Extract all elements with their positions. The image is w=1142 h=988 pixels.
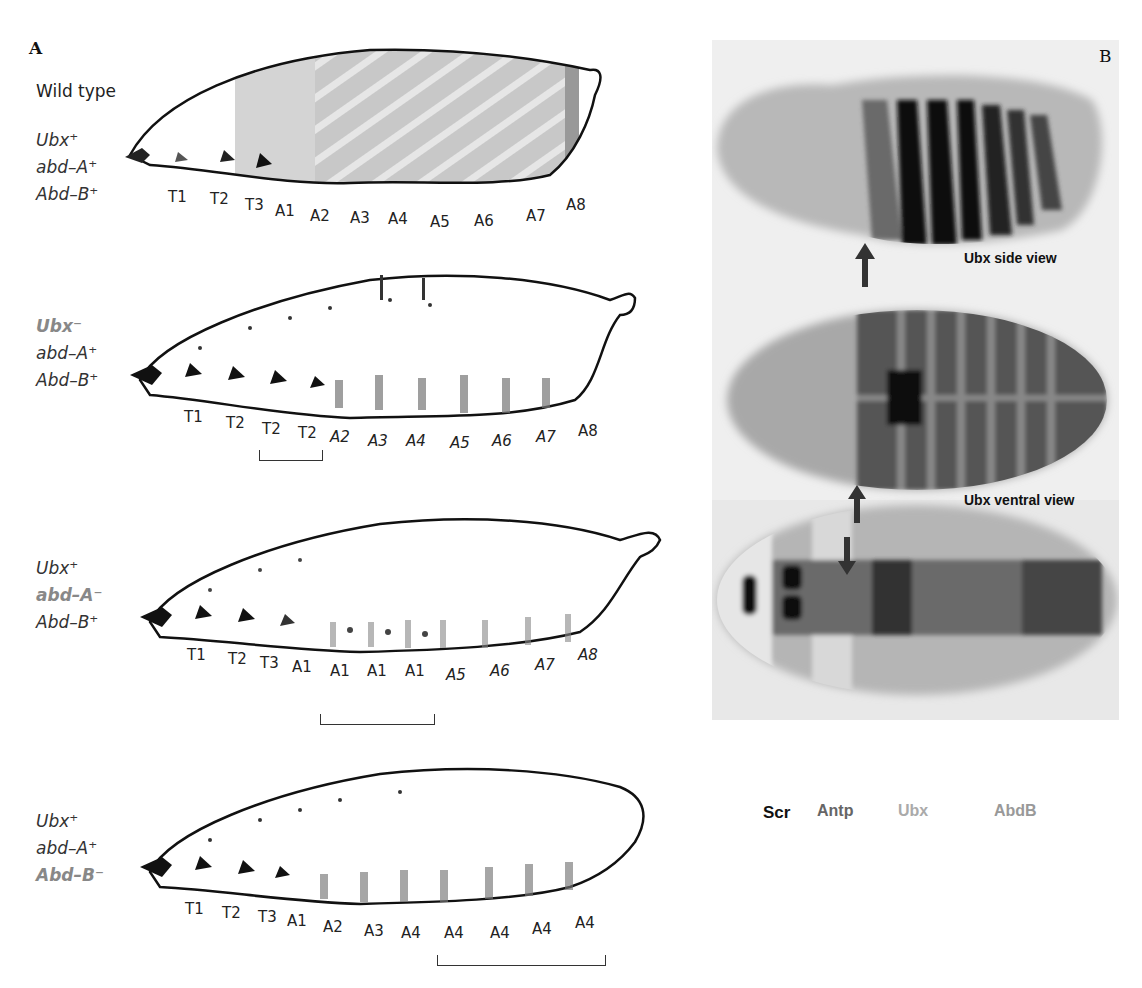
segment-label: T2 xyxy=(228,650,247,668)
genotype-wild-type: Wild type Ubx⁺ abd–A⁺ Abd–B⁺ xyxy=(36,78,116,208)
segment-label: A2 xyxy=(323,918,343,936)
segment-label: A2 xyxy=(310,207,330,225)
gene-label-antp: Antp xyxy=(817,802,853,820)
segment-label: A6 xyxy=(490,662,510,680)
segment-label: T2 xyxy=(226,414,245,432)
genotype-abd-b: Abd–B⁺ xyxy=(36,609,102,636)
segment-label: A1 xyxy=(405,662,425,680)
segment-label: A7 xyxy=(536,428,556,446)
genotype-abd-b: Abd–B⁻ xyxy=(36,862,104,889)
segment-label: A8 xyxy=(578,422,598,440)
genotype-abd-a: abd–A⁺ xyxy=(36,835,104,862)
genotype-ubx: Ubx⁺ xyxy=(36,127,116,154)
segment-label: A4 xyxy=(406,432,426,450)
segment-label: A8 xyxy=(578,646,598,664)
segment-label: T1 xyxy=(168,188,187,206)
segment-label: T3 xyxy=(258,908,277,926)
genotype-abd-a: abd–A⁺ xyxy=(36,340,98,367)
segment-label: A5 xyxy=(450,434,470,452)
segment-label: A3 xyxy=(364,922,384,940)
embryo-stains xyxy=(712,40,1119,720)
segment-label: A3 xyxy=(350,209,370,227)
segment-label: T1 xyxy=(187,646,206,664)
larva-abd-a-mutant xyxy=(140,512,680,657)
segment-label: A4 xyxy=(388,210,408,228)
arrow-up-icon xyxy=(855,243,875,287)
segment-label: A4 xyxy=(490,924,510,942)
arrow-down-icon xyxy=(838,537,856,575)
gene-label-abdb: AbdB xyxy=(994,802,1037,820)
segment-label: T2 xyxy=(222,904,241,922)
segment-label: A7 xyxy=(526,207,546,225)
genotype-abd-a-mutant: Ubx⁺ abd–A⁻ Abd–B⁺ xyxy=(36,555,102,636)
segment-label: A1 xyxy=(292,658,312,676)
segment-label: A8 xyxy=(566,196,586,214)
transformation-bracket xyxy=(437,955,606,966)
arrow-up-icon xyxy=(848,485,866,523)
segment-label: A6 xyxy=(492,432,512,450)
gene-label-scr: Scr xyxy=(763,803,790,823)
segment-label: A5 xyxy=(430,213,450,231)
segment-label: A1 xyxy=(367,662,387,680)
caption-ubx-ventral-view: Ubx ventral view xyxy=(964,492,1075,508)
segment-label: T1 xyxy=(185,900,204,918)
segment-label: T3 xyxy=(260,654,279,672)
segment-label: A5 xyxy=(446,666,466,684)
segment-label: A1 xyxy=(330,662,350,680)
genotype-abd-b: Abd–B⁺ xyxy=(36,367,98,394)
genotype-ubx-mutant: Ubx⁻ abd–A⁺ Abd–B⁺ xyxy=(36,313,98,394)
segment-label: T2 xyxy=(262,420,281,438)
larva-wild-type xyxy=(120,40,610,210)
panel-b-label: B xyxy=(1099,46,1112,66)
embryo-photo-panel xyxy=(712,40,1119,720)
segment-label: A1 xyxy=(287,912,307,930)
larva-ubx-mutant xyxy=(130,270,670,420)
genotype-abd-b: Abd–B⁺ xyxy=(36,181,116,208)
genotype-ubx: Ubx⁻ xyxy=(36,313,98,340)
genotype-ubx: Ubx⁺ xyxy=(36,808,104,835)
segment-label: T3 xyxy=(245,196,264,214)
segment-label: T2 xyxy=(210,190,229,208)
larva-abd-b-mutant xyxy=(140,762,660,912)
segment-label: A6 xyxy=(474,212,494,230)
genotype-abd-a: abd–A⁻ xyxy=(36,582,102,609)
segment-label: A2 xyxy=(330,428,350,446)
transformation-bracket xyxy=(259,450,323,461)
segment-label: A4 xyxy=(444,924,464,942)
segment-label: A4 xyxy=(401,924,421,942)
wild-type-title: Wild type xyxy=(36,78,116,105)
genotype-abd-a: abd–A⁺ xyxy=(36,154,116,181)
segment-label: A3 xyxy=(368,432,388,450)
segment-label: T1 xyxy=(184,408,203,426)
caption-ubx-side-view: Ubx side view xyxy=(964,250,1057,266)
segment-label: A4 xyxy=(575,914,595,932)
segment-label: T2 xyxy=(298,424,317,442)
segment-label: A7 xyxy=(535,656,555,674)
gene-label-ubx: Ubx xyxy=(898,802,928,820)
genotype-ubx: Ubx⁺ xyxy=(36,555,102,582)
transformation-bracket xyxy=(320,714,435,725)
segment-label: A1 xyxy=(275,202,295,220)
genotype-abd-b-mutant: Ubx⁺ abd–A⁺ Abd–B⁻ xyxy=(36,808,104,889)
segment-label: A4 xyxy=(532,920,552,938)
panel-a-label: A xyxy=(29,38,42,58)
